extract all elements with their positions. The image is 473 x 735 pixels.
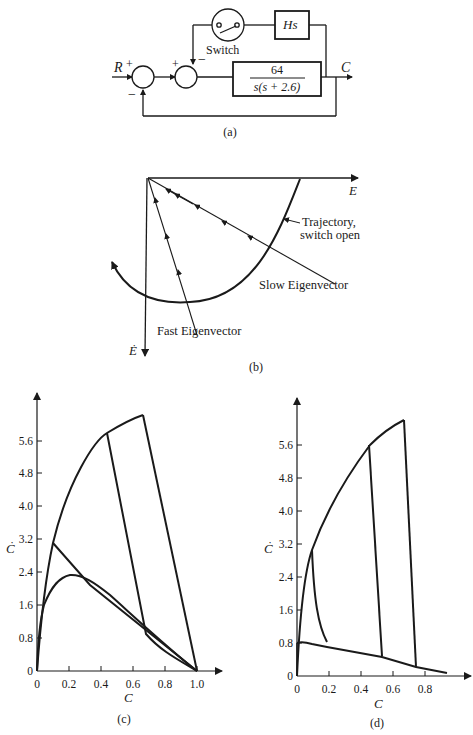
x-ticks (329, 671, 425, 676)
sum2-minus: − (198, 52, 206, 67)
x-axis-label: C (374, 696, 383, 711)
e-axis-label: E (348, 183, 357, 198)
plant-numerator: 64 (271, 63, 283, 77)
caption-b: (b) (249, 360, 263, 374)
sum1-plus: + (126, 57, 133, 71)
block-diagram-a (112, 9, 352, 116)
y-tick-label: 3.2 (19, 533, 34, 545)
x-tick-label: 0.2 (62, 678, 77, 690)
x-ticks (69, 666, 197, 671)
edot-axis (145, 178, 147, 356)
x-axis-label: C (124, 690, 133, 705)
trajectory-label-2: switch open (300, 228, 361, 242)
slow-eigenvector-label: Slow Eigenvector (259, 278, 349, 292)
label-pointer (284, 219, 300, 223)
y-tick-label: 0.8 (279, 637, 294, 649)
figure-canvas: R + − + − Switch Hs 64 s(s + 2.6) C (a) … (0, 0, 473, 735)
x-tick-label: 0.8 (158, 678, 173, 690)
chart-d-curves (297, 420, 447, 676)
sum2-plus: + (172, 57, 179, 71)
x-tick-label: 0.4 (354, 683, 369, 695)
y-tick-label: 2.4 (279, 571, 294, 583)
switch-open-arc (297, 420, 404, 676)
y-tick-label: 3.2 (279, 538, 294, 550)
y-tick-label: 2.4 (19, 566, 34, 578)
y-axis-label: Ċ (264, 541, 273, 556)
direction-arrow (222, 221, 256, 240)
chart-c-labels: 0 0.8 1.6 2.4 3.2 4.0 4.8 5.6 Ċ 0 0.2 0.… (6, 435, 204, 726)
y-tick-label: 0.8 (19, 632, 34, 644)
tach-label: Hs (282, 17, 297, 32)
block-diagram-a-labels: R + − + − Switch Hs 64 s(s + 2.6) C (a) (113, 17, 351, 139)
x-tick-label: 0.6 (386, 683, 401, 695)
sum1-minus: − (128, 87, 136, 102)
direction-arrow (166, 189, 193, 204)
caption-c: (c) (117, 712, 130, 726)
y-axis-label: Ċ (6, 541, 15, 556)
switch-contact (217, 23, 221, 27)
y-tick-label: 4.8 (19, 467, 34, 479)
y-tick-label: 0 (287, 670, 293, 682)
fast-eigenvector-label: Fast Eigenvector (157, 324, 242, 338)
caption-a: (a) (223, 125, 236, 139)
y-tick-label: 4.0 (279, 505, 294, 517)
switch-open-arc (37, 415, 143, 671)
caption-d: (d) (370, 716, 384, 730)
y-tick-label: 1.6 (19, 599, 34, 611)
y-ticks (37, 441, 42, 638)
switching-line-1 (404, 420, 416, 667)
edot-axis-label: Ė (128, 343, 137, 358)
chart-c-curves (37, 415, 197, 671)
switching-line-3 (53, 543, 197, 671)
sliding-line (297, 642, 447, 673)
x-tick-label: 0.6 (126, 678, 141, 690)
output-label: C (341, 60, 351, 75)
switching-line-2 (369, 445, 382, 656)
x-tick-label: 0 (294, 683, 300, 695)
x-tick-label: 0 (34, 678, 40, 690)
x-tick-label: 0.4 (94, 678, 109, 690)
chart-d (297, 398, 471, 676)
x-tick-label: 0.2 (322, 683, 337, 695)
switch-label: Switch (206, 43, 239, 57)
y-tick-label: 1.6 (279, 604, 294, 616)
y-tick-label: 4.0 (19, 500, 34, 512)
chart-c (37, 393, 222, 671)
summing-junction-1 (132, 66, 154, 88)
y-tick-label: 4.8 (279, 472, 294, 484)
switch-blade (220, 26, 236, 33)
input-label: R (113, 60, 123, 75)
y-tick-label: 5.6 (19, 435, 34, 447)
y-tick-label: 0 (27, 665, 33, 677)
plant-denominator: s(s + 2.6) (254, 80, 300, 94)
x-tick-label: 0.8 (418, 683, 433, 695)
y-tick-label: 5.6 (279, 439, 294, 451)
switching-line-3 (312, 550, 327, 642)
x-tick-label: 1.0 (190, 678, 205, 690)
trajectory-label-1: Trajectory, (302, 215, 356, 229)
